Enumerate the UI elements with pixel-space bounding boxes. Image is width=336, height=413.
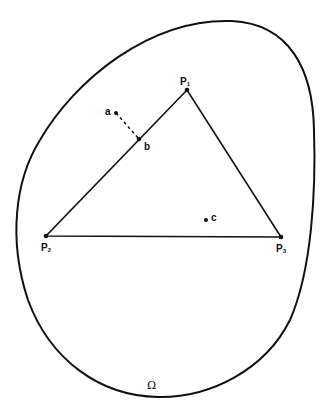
triangle-in-domain-diagram: P1 P2 P3 a b c Ω: [0, 0, 336, 413]
domain-boundary: [16, 21, 314, 397]
point-b-dot: [137, 137, 142, 142]
triangle: [46, 90, 281, 237]
vertex-p2-dot: [44, 234, 49, 239]
point-c-dot: [204, 218, 208, 222]
vertex-p1-dot: [185, 88, 190, 93]
dashed-segment-ab: [116, 113, 139, 139]
label-c: c: [211, 212, 217, 223]
vertex-p3-dot: [279, 235, 284, 240]
label-p3: P3: [276, 243, 287, 254]
point-a-dot: [114, 111, 118, 115]
label-p2: P2: [41, 242, 52, 253]
label-b: b: [144, 141, 150, 152]
label-a: a: [105, 106, 111, 117]
label-omega: Ω: [147, 379, 156, 392]
label-p1: P1: [180, 76, 191, 87]
